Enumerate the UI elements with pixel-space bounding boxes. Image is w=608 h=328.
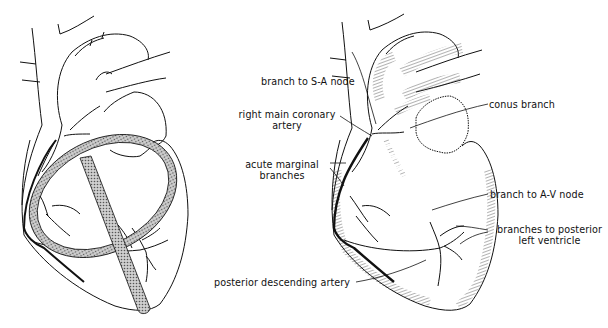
label-acute-marginal-branches: acute marginal branches [236,159,328,181]
label-line: branches to posterior [491,224,608,235]
left-heart-drawing [20,16,188,310]
label-right-main-coronary-artery: right main coronary artery [234,109,340,131]
label-line: branches [236,170,328,181]
label-conus-branch: conus branch [489,99,555,110]
label-line: artery [234,120,340,131]
label-line: right main coronary [234,109,340,120]
label-branches-to-posterior-left-ventricle: branches to posterior left ventricle [491,224,608,246]
right-heart-drawing [330,14,498,310]
label-branch-to-av-node: branch to A-V node [490,189,584,200]
label-line: acute marginal [236,159,328,170]
label-line: left ventricle [491,235,608,246]
label-posterior-descending-artery: posterior descending artery [214,277,350,288]
label-branch-to-sa-node: branch to S-A node [261,76,355,87]
